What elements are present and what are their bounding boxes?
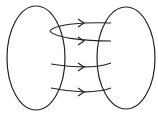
left-set-ellipse xyxy=(7,6,65,110)
arrow-bottom xyxy=(51,88,111,96)
loop-arrow-top xyxy=(50,19,111,45)
arrowhead-icon xyxy=(78,37,84,45)
mapping-diagram xyxy=(0,0,158,117)
arrow-middle xyxy=(51,63,111,71)
